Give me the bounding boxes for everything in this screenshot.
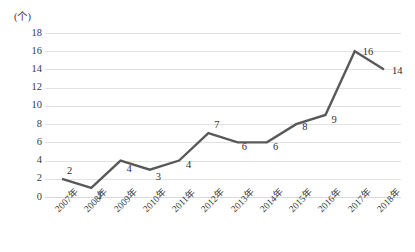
y-axis-tick-label: 2 [18, 173, 42, 184]
x-axis-tick-label: 2013年 [227, 184, 257, 214]
line-chart: (个) 181614121086420 21434766891614 2007年… [0, 0, 415, 252]
y-axis-tick-label: 8 [18, 119, 42, 130]
x-axis-tick-label: 2015年 [285, 184, 315, 214]
x-axis-tick-label: 2008年 [80, 184, 110, 214]
y-axis-tick-label: 16 [18, 46, 42, 57]
x-axis-tick-label: 2017年 [344, 184, 374, 214]
x-axis-tick-label: 2010年 [139, 184, 169, 214]
y-axis-tick-label: 10 [18, 100, 42, 111]
x-axis-tick-label: 2011年 [168, 185, 198, 215]
x-axis-tick-label: 2007年 [51, 184, 81, 214]
y-axis-tick-label: 0 [18, 192, 42, 203]
y-axis-tick-label: 14 [18, 64, 42, 75]
x-axis-tick-label: 2009年 [110, 184, 140, 214]
x-axis-tick-label: 2014年 [256, 184, 286, 214]
y-axis-tick-label: 18 [18, 28, 42, 39]
y-axis-tick-label: 4 [18, 155, 42, 166]
x-axis-tick-labels: 2007年2008年2009年2010年2011年2012年2013年2014年… [45, 0, 401, 252]
x-axis-tick-label: 2012年 [197, 184, 227, 214]
x-axis-tick-label: 2018年 [373, 184, 403, 214]
y-axis-tick-label: 6 [18, 137, 42, 148]
y-axis-tick-labels: 181614121086420 [14, 0, 42, 252]
y-axis-tick-label: 12 [18, 82, 42, 93]
x-axis-tick-label: 2016年 [314, 184, 344, 214]
